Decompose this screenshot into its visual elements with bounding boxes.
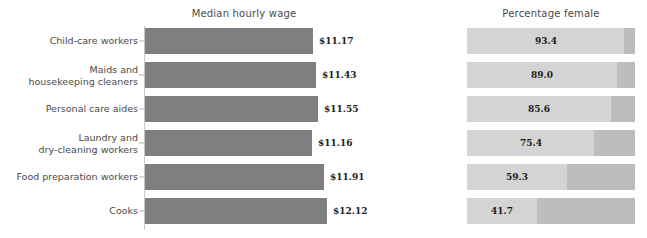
axis-tick: [139, 211, 144, 212]
category-label: Child-care workers: [0, 35, 138, 47]
percentage-female-panel: 93.489.085.675.459.341.7: [467, 26, 635, 230]
percentage-row: 89.0: [467, 62, 635, 88]
category-label: Food preparation workers: [0, 171, 138, 183]
percentage-value-label: 75.4: [520, 138, 542, 148]
wage-row: Laundry and dry-cleaning workers$11.16: [0, 130, 400, 156]
median-hourly-wage-panel: Child-care workers$11.17Maids and housek…: [0, 26, 400, 230]
wage-value-label: $11.55: [324, 104, 358, 114]
percentage-row: 59.3: [467, 164, 635, 190]
wage-value-label: $11.16: [318, 138, 352, 148]
category-label: Laundry and dry-cleaning workers: [0, 132, 138, 155]
axis-tick: [139, 109, 144, 110]
wage-bar: [145, 130, 312, 156]
percentage-row: 93.4: [467, 28, 635, 54]
percentage-value-label: 89.0: [531, 70, 553, 80]
wage-value-label: $11.17: [319, 36, 353, 46]
wage-bar: [145, 164, 324, 190]
wage-bar: [145, 28, 313, 54]
wage-bar: [145, 62, 316, 88]
wage-value-label: $12.12: [333, 206, 367, 216]
wage-value-label: $11.91: [330, 172, 364, 182]
wage-row: Child-care workers$11.17: [0, 28, 400, 54]
percentage-value-label: 41.7: [491, 206, 513, 216]
category-label: Cooks: [0, 205, 138, 217]
wage-bar: [145, 96, 318, 122]
right-panel-title: Percentage female: [467, 8, 635, 19]
wage-row: Cooks$12.12: [0, 198, 400, 224]
category-label: Personal care aides: [0, 103, 138, 115]
category-label: Maids and housekeeping cleaners: [0, 64, 138, 87]
left-panel-title: Median hourly wage: [144, 8, 344, 19]
axis-tick: [139, 143, 144, 144]
paired-bar-chart-figure: Median hourly wage Percentage female Chi…: [0, 0, 647, 238]
axis-tick: [139, 75, 144, 76]
wage-bar: [145, 198, 327, 224]
percentage-row: 75.4: [467, 130, 635, 156]
percentage-value-label: 85.6: [528, 104, 550, 114]
wage-row: Personal care aides$11.55: [0, 96, 400, 122]
axis-tick: [139, 41, 144, 42]
percentage-row: 41.7: [467, 198, 635, 224]
axis-tick: [139, 177, 144, 178]
wage-row: Food preparation workers$11.91: [0, 164, 400, 190]
wage-value-label: $11.43: [322, 70, 356, 80]
wage-row: Maids and housekeeping cleaners$11.43: [0, 62, 400, 88]
percentage-row: 85.6: [467, 96, 635, 122]
percentage-value-label: 93.4: [535, 36, 557, 46]
percentage-value-label: 59.3: [506, 172, 528, 182]
